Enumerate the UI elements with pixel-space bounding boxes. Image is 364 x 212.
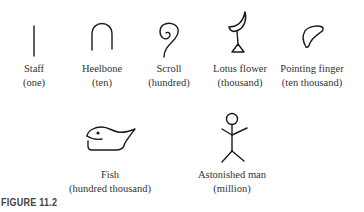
hieroglyph-name: Scroll	[148, 62, 189, 76]
hieroglyph-label-pointing-finger: Pointing finger (ten thousand)	[280, 62, 343, 90]
hieroglyph-value: (one)	[23, 76, 45, 90]
pointing-finger-icon	[303, 26, 323, 47]
scroll-icon	[160, 23, 178, 57]
hieroglyph-label-heelbone: Heelbone (ten)	[82, 62, 122, 90]
hieroglyph-label-staff: Staff (one)	[23, 62, 45, 90]
hieroglyph-value: (hundred thousand)	[69, 182, 151, 196]
hieroglyph-name: Astonished man	[198, 168, 266, 182]
fish-icon	[87, 127, 135, 150]
lotus-flower-icon	[229, 12, 246, 52]
hieroglyph-value: (million)	[198, 182, 266, 196]
hieroglyph-drawings	[0, 0, 364, 212]
hieroglyph-label-lotus-flower: Lotus flower (thousand)	[213, 62, 267, 90]
hieroglyph-name: Heelbone	[82, 62, 122, 76]
hieroglyph-value: (hundred)	[148, 76, 189, 90]
hieroglyph-name: Fish	[69, 168, 151, 182]
figure-caption: FIGURE 11.2	[1, 196, 57, 208]
hieroglyph-label-fish: Fish (hundred thousand)	[69, 168, 151, 196]
hieroglyph-value: (ten)	[82, 76, 122, 90]
hieroglyph-value: (thousand)	[213, 76, 267, 90]
heelbone-icon	[92, 24, 112, 51]
astonished-man-icon	[222, 114, 247, 163]
hieroglyph-label-scroll: Scroll (hundred)	[148, 62, 189, 90]
hieroglyph-name: Pointing finger	[280, 62, 343, 76]
hieroglyph-value: (ten thousand)	[280, 76, 343, 90]
hieroglyph-name: Staff	[23, 62, 45, 76]
hieroglyph-label-astonished-man: Astonished man (million)	[198, 168, 266, 196]
hieroglyph-name: Lotus flower	[213, 62, 267, 76]
